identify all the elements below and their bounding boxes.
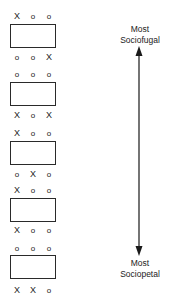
seat: X bbox=[12, 286, 22, 295]
label-most-sociofugal: Most Sociofugal bbox=[100, 24, 170, 46]
seat: o bbox=[28, 226, 38, 235]
seat: o bbox=[44, 70, 54, 79]
seat: o bbox=[28, 244, 38, 253]
bottom-seats: o o X bbox=[12, 53, 54, 62]
seat: X bbox=[12, 186, 22, 195]
label-line: Most bbox=[100, 258, 170, 269]
label-line: Sociopetal bbox=[100, 269, 170, 280]
seat: o bbox=[44, 286, 54, 295]
label-line: Most bbox=[100, 24, 170, 35]
seat: o bbox=[44, 186, 54, 195]
seat: o bbox=[44, 226, 54, 235]
seat: X bbox=[12, 129, 22, 138]
bottom-seats: X X o bbox=[12, 286, 54, 295]
seat: o bbox=[44, 12, 54, 21]
table-rectangle bbox=[10, 24, 56, 48]
arrangement-3: X o o o X o bbox=[0, 129, 70, 189]
seat: o bbox=[44, 129, 54, 138]
seat: X bbox=[44, 111, 54, 120]
top-seats: X o o bbox=[12, 12, 54, 21]
seat: o bbox=[28, 70, 38, 79]
seat: o bbox=[12, 244, 22, 253]
bottom-seats: X o X bbox=[12, 111, 54, 120]
arrangement-1: X o o o o X bbox=[0, 12, 70, 72]
arrangement-2: o o o X o X bbox=[0, 70, 70, 130]
arrangement-4: X o o X o o bbox=[0, 186, 70, 246]
arrangement-5: o o o X X o bbox=[0, 244, 70, 302]
double-arrow-icon bbox=[130, 44, 150, 260]
seat: X bbox=[12, 226, 22, 235]
seat: o bbox=[28, 129, 38, 138]
seat: o bbox=[28, 53, 38, 62]
table-rectangle bbox=[10, 255, 56, 279]
top-seats: o o o bbox=[12, 244, 54, 253]
table-rectangle bbox=[10, 82, 56, 106]
table-rectangle bbox=[10, 141, 56, 165]
label-most-sociopetal: Most Sociopetal bbox=[100, 258, 170, 280]
table-rectangle bbox=[10, 198, 56, 222]
seat: o bbox=[12, 170, 22, 179]
seat: o bbox=[28, 12, 38, 21]
bottom-seats: o X o bbox=[12, 170, 54, 179]
top-seats: X o o bbox=[12, 129, 54, 138]
seat: X bbox=[28, 170, 38, 179]
seat: o bbox=[28, 186, 38, 195]
top-seats: o o o bbox=[12, 70, 54, 79]
seat: o bbox=[44, 244, 54, 253]
seat: o bbox=[12, 53, 22, 62]
seat: X bbox=[12, 111, 22, 120]
top-seats: X o o bbox=[12, 186, 54, 195]
seat: o bbox=[12, 70, 22, 79]
seat: X bbox=[12, 12, 22, 21]
seat: X bbox=[44, 53, 54, 62]
seat: X bbox=[28, 286, 38, 295]
seat: o bbox=[44, 170, 54, 179]
seat: o bbox=[28, 111, 38, 120]
bottom-seats: X o o bbox=[12, 226, 54, 235]
